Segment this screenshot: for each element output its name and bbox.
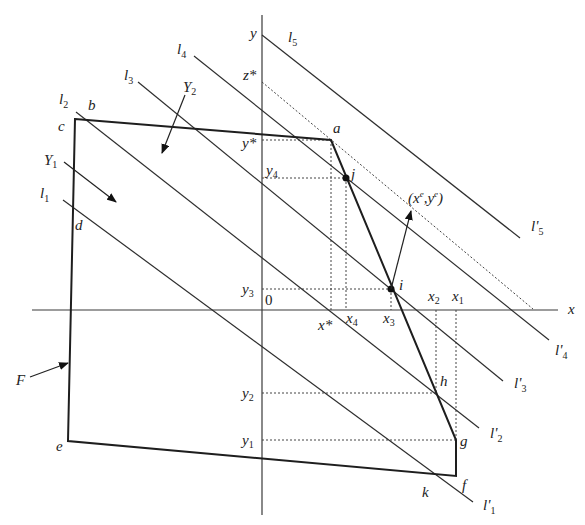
line-l2 xyxy=(76,112,479,428)
label-l3-prime: l'3 xyxy=(514,375,526,394)
label-k: k xyxy=(422,484,429,500)
iso-lines xyxy=(63,35,549,502)
label-Y2: Y2 xyxy=(183,79,196,97)
line-l5 xyxy=(262,35,520,238)
label-e: e xyxy=(56,438,63,454)
label-l3: l3 xyxy=(124,67,133,86)
point-j xyxy=(343,175,350,182)
label-i: i xyxy=(399,277,403,293)
label-x-star: x* xyxy=(317,317,333,333)
line-l3 xyxy=(138,82,503,381)
label-l2: l2 xyxy=(59,91,68,110)
label-l4: l4 xyxy=(177,41,186,60)
label-h: h xyxy=(440,373,448,389)
label-l1: l1 xyxy=(40,185,49,204)
label-j: j xyxy=(349,166,355,182)
arrow-Y1 xyxy=(64,162,116,202)
label-l2-prime: l'2 xyxy=(490,425,502,444)
label-l5-prime: l'5 xyxy=(531,218,543,237)
label-g: g xyxy=(460,433,468,449)
label-x4: x4 xyxy=(345,310,358,328)
label-x1: x1 xyxy=(451,288,464,306)
label-y4: y4 xyxy=(264,162,278,180)
y-axis-label: y xyxy=(248,25,257,41)
arrow-F xyxy=(30,363,68,377)
optimal-line xyxy=(262,82,533,309)
label-y3: y3 xyxy=(240,281,254,299)
label-z-star: z* xyxy=(242,67,257,83)
label-l4-prime: l'4 xyxy=(555,342,567,361)
projection-lines xyxy=(262,82,533,440)
origin-label: 0 xyxy=(265,292,273,308)
diagram-svg: x y 0 l1 l2 l3 l4 l5 l'1 l'2 l'3 l'4 l'5… xyxy=(0,0,585,525)
label-y-star: y* xyxy=(240,135,257,151)
label-d: d xyxy=(75,217,83,233)
arrow-Y2 xyxy=(162,95,185,153)
label-l5: l5 xyxy=(288,29,297,48)
label-c: c xyxy=(58,118,65,134)
line-l1 xyxy=(63,200,473,502)
label-Y1: Y1 xyxy=(44,152,57,170)
label-xe-ye: (xe,ye) xyxy=(408,189,443,207)
label-y2: y2 xyxy=(240,385,254,403)
label-x3: x3 xyxy=(382,310,395,328)
line-l4 xyxy=(194,56,549,340)
label-x2: x2 xyxy=(427,288,440,306)
label-a: a xyxy=(333,120,341,136)
diagram-canvas: x y 0 l1 l2 l3 l4 l5 l'1 l'2 l'3 l'4 l'5… xyxy=(0,0,585,525)
label-l1-prime: l'1 xyxy=(483,497,495,516)
label-f: f xyxy=(462,477,468,493)
label-y1: y1 xyxy=(240,432,254,450)
label-F: F xyxy=(15,372,26,388)
x-axis-label: x xyxy=(567,301,575,317)
label-b: b xyxy=(88,97,96,113)
